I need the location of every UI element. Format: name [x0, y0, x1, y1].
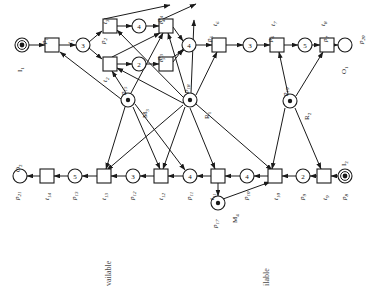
- label-t7: t7: [269, 22, 278, 26]
- label-O2: O2: [14, 164, 23, 172]
- label-p21: p21: [13, 192, 22, 201]
- caption-right: ilable: [262, 268, 271, 286]
- caption-left: vailable: [104, 261, 113, 286]
- label-t6: t6: [211, 22, 220, 26]
- transition-t14[interactable]: [40, 169, 54, 183]
- transition-t2[interactable]: [103, 57, 117, 71]
- label-I2: I2: [340, 161, 349, 166]
- count-p10: 4: [245, 173, 249, 181]
- label-t11: t11: [208, 193, 217, 200]
- transition-t9[interactable]: [317, 169, 331, 183]
- label-M4: M4: [231, 214, 240, 223]
- label-p5: p5: [205, 36, 214, 42]
- label-t13: t13: [100, 193, 109, 200]
- count-p5: 4: [187, 42, 191, 50]
- label-R1: R1: [203, 112, 212, 119]
- token-p1: [20, 43, 25, 48]
- label-M3: M3: [141, 109, 150, 118]
- label-t12: t12: [157, 193, 166, 200]
- count-p4: 4: [137, 23, 141, 31]
- label-p15: p15: [119, 87, 128, 96]
- token-p17: [216, 201, 220, 205]
- label-t4: t4: [157, 20, 166, 24]
- label-p6: p6: [266, 36, 275, 42]
- token-p15: [126, 98, 130, 102]
- count-p12: 3: [131, 173, 135, 181]
- token-p18: [188, 98, 192, 102]
- label-p12: p12: [128, 192, 137, 201]
- label-t5: t5: [157, 58, 166, 62]
- place-p20[interactable]: [338, 38, 352, 52]
- label-p17: p17: [211, 220, 220, 229]
- label-t14: t14: [43, 193, 52, 200]
- count-p7: 5: [303, 42, 307, 50]
- token-p19: [288, 99, 292, 103]
- transition-t11[interactable]: [211, 169, 225, 183]
- label-p20: p20: [357, 36, 366, 45]
- count-p6: 3: [248, 42, 252, 50]
- label-p1: p1: [40, 38, 49, 44]
- label-O1: O1: [340, 66, 349, 74]
- label-I1: I1: [16, 67, 25, 72]
- label-t9: t9: [321, 196, 330, 200]
- label-R2: R2: [303, 113, 312, 120]
- label-p11: p11: [185, 192, 194, 200]
- label-p8: p8: [340, 194, 349, 200]
- label-p7: p7: [321, 36, 330, 42]
- count-p2: 3: [81, 42, 85, 50]
- label-p9: p9: [298, 194, 307, 200]
- transition-t10[interactable]: [268, 169, 282, 183]
- places-group: [13, 19, 352, 210]
- label-t3: t3: [101, 20, 110, 24]
- label-t2: t2: [101, 78, 110, 82]
- count-p11: 4: [188, 173, 192, 181]
- label-t1: t1: [66, 40, 75, 44]
- transition-t12[interactable]: [154, 169, 168, 183]
- count-p9: 2: [301, 173, 305, 181]
- label-t10: t10: [272, 193, 281, 200]
- count-p3: 2: [137, 61, 141, 69]
- count-p13: 5: [73, 173, 77, 181]
- label-p19: p19: [281, 88, 290, 97]
- token-p8: [343, 174, 348, 179]
- transition-t13[interactable]: [97, 169, 111, 183]
- label-p10: p10: [242, 192, 251, 201]
- label-p2: p2: [99, 38, 108, 44]
- label-t8: t8: [319, 22, 328, 26]
- label-p13: p13: [70, 192, 79, 201]
- label-p18: p18: [182, 85, 191, 94]
